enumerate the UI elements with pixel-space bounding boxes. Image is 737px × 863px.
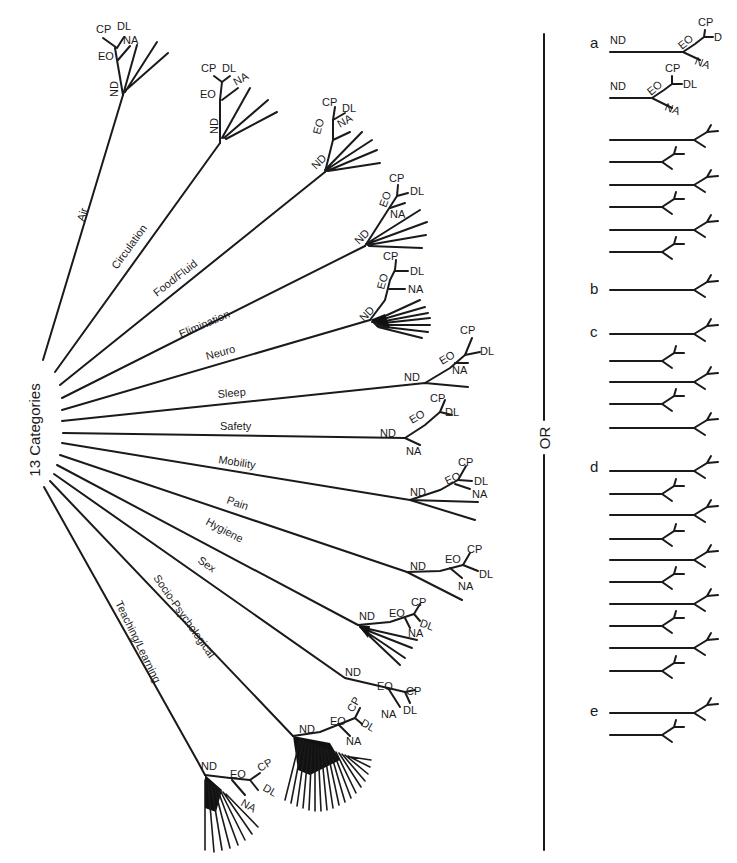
svg-text:NA: NA (458, 580, 474, 592)
svg-text:EO: EO (676, 32, 696, 52)
svg-text:NA: NA (693, 55, 712, 72)
svg-text:DL: DL (222, 62, 236, 74)
or-separator: OR (536, 34, 553, 850)
svg-text:ND: ND (410, 560, 426, 572)
branch-pain: CP DL NA EO ND Pain (60, 455, 493, 600)
svg-text:DL: DL (445, 406, 459, 418)
alternative-b: b (590, 275, 718, 297)
branch-mobility: CP DL NA EO ND Mobility (62, 443, 488, 520)
svg-text:NA: NA (390, 208, 406, 220)
svg-text:EO: EO (310, 117, 326, 136)
svg-text:D: D (714, 31, 722, 43)
diagram-title: 13 Categories (26, 383, 43, 476)
svg-text:NA: NA (335, 111, 355, 129)
svg-text:DL: DL (479, 568, 493, 580)
svg-text:EO: EO (200, 88, 216, 100)
svg-text:ND: ND (380, 427, 396, 439)
svg-text:Socio-Psychological: Socio-Psychological (151, 572, 217, 660)
svg-text:Circulation: Circulation (109, 222, 149, 271)
svg-text:EO: EO (389, 607, 405, 619)
alternative-c: c (590, 319, 718, 435)
svg-text:CP: CP (460, 324, 475, 336)
alternative-e: e (590, 698, 718, 742)
svg-text:NA: NA (381, 708, 397, 720)
svg-text:ND: ND (610, 80, 626, 92)
svg-text:DL: DL (474, 475, 488, 487)
branch-air: CP DL NA EO ND Air (43, 20, 168, 360)
svg-text:EO: EO (98, 50, 114, 62)
svg-text:Mobility: Mobility (218, 453, 257, 471)
svg-text:CP: CP (344, 695, 362, 714)
svg-text:c: c (590, 323, 598, 340)
svg-text:CP: CP (96, 23, 111, 35)
svg-text:DL: DL (403, 704, 417, 716)
diagram-canvas: 13 Categories CP DL NA EO ND Air CP DL N… (0, 0, 737, 863)
svg-text:DL: DL (410, 265, 424, 277)
svg-text:NA: NA (239, 796, 259, 814)
svg-text:CP: CP (322, 96, 337, 108)
svg-text:NA: NA (406, 445, 422, 457)
svg-text:NA: NA (452, 364, 468, 376)
svg-text:CP: CP (406, 685, 421, 697)
svg-text:ND: ND (345, 666, 361, 678)
alternative-d: d (590, 456, 718, 678)
svg-text:Sleep: Sleep (217, 386, 246, 400)
svg-text:EO: EO (230, 768, 246, 780)
svg-text:EO: EO (445, 553, 461, 565)
svg-text:Hygiene: Hygiene (204, 515, 245, 545)
svg-text:DL: DL (342, 102, 356, 114)
svg-text:ND: ND (108, 81, 120, 97)
svg-text:CP: CP (698, 16, 713, 28)
svg-text:ND: ND (610, 34, 626, 46)
svg-text:DL: DL (117, 20, 131, 32)
svg-text:e: e (590, 702, 598, 719)
svg-text:CP: CP (467, 543, 482, 555)
svg-text:Safety: Safety (220, 420, 252, 432)
svg-text:ND: ND (208, 118, 220, 134)
branch-sex: ND EO CP DL NA Sex (54, 474, 421, 720)
svg-text:DL: DL (359, 716, 377, 733)
svg-text:NA: NA (346, 735, 362, 747)
svg-text:ND: ND (201, 760, 217, 772)
svg-text:CP: CP (201, 62, 216, 74)
svg-text:NA: NA (408, 283, 424, 295)
svg-text:ND: ND (359, 610, 375, 622)
svg-text:EO: EO (443, 469, 463, 487)
svg-text:EO: EO (407, 407, 427, 426)
svg-text:CP: CP (430, 392, 445, 404)
svg-text:Elimination: Elimination (177, 308, 231, 340)
svg-text:CP: CP (383, 250, 398, 262)
svg-text:NA: NA (663, 101, 682, 118)
branch-safety: CP DL NA EO ND Safety (63, 392, 459, 457)
svg-text:EO: EO (330, 715, 346, 727)
svg-text:DL: DL (480, 345, 494, 357)
svg-text:NA: NA (408, 627, 424, 639)
svg-text:CP: CP (411, 596, 426, 608)
svg-text:ND: ND (404, 371, 420, 383)
svg-text:b: b (590, 280, 598, 297)
svg-text:Neuro: Neuro (204, 343, 236, 362)
svg-text:OR: OR (536, 427, 553, 450)
branch-circulation: CP DL NA EO ND Circulation (55, 62, 277, 372)
svg-text:CP: CP (255, 756, 274, 774)
svg-text:CP: CP (458, 456, 473, 468)
svg-text:DL: DL (261, 781, 279, 798)
svg-text:Pain: Pain (225, 494, 250, 513)
branch-teaching-learning: ND EO CP DL NA Teaching/Learning (44, 487, 279, 852)
svg-text:Sex: Sex (196, 554, 219, 575)
svg-text:ND: ND (299, 723, 315, 735)
svg-text:NA: NA (472, 488, 488, 500)
svg-text:DL: DL (410, 185, 424, 197)
svg-text:EO: EO (377, 680, 393, 692)
svg-text:ND: ND (410, 486, 426, 498)
svg-text:a: a (590, 34, 599, 51)
alternative-a-rows (610, 125, 718, 259)
svg-text:NA: NA (123, 34, 139, 46)
svg-text:EO: EO (645, 78, 665, 98)
svg-text:d: d (590, 458, 598, 475)
svg-text:Air: Air (74, 206, 90, 223)
alternative-a: a ND EO CP D NA ND EO CP DL NA (590, 16, 722, 117)
branch-neuro: CP DL NA EO ND Neuro (62, 250, 430, 410)
branch-sleep: CP DL NA EO ND Sleep (62, 324, 494, 421)
svg-text:Teaching/Learning: Teaching/Learning (113, 599, 163, 685)
